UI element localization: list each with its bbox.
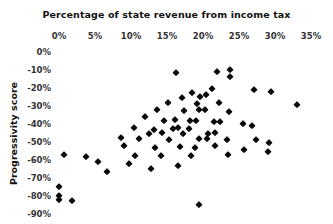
data-point	[130, 124, 138, 132]
data-point	[141, 113, 149, 121]
data-point	[195, 201, 203, 209]
data-point	[201, 106, 209, 114]
data-point	[195, 135, 203, 143]
plot-area	[0, 0, 333, 224]
data-point	[164, 99, 172, 107]
data-point	[293, 101, 301, 109]
data-point	[227, 73, 235, 81]
data-point	[215, 99, 223, 107]
data-point	[171, 116, 179, 124]
data-point	[240, 120, 248, 128]
data-point	[94, 158, 102, 166]
data-point	[224, 151, 232, 159]
data-point	[172, 69, 180, 77]
data-point	[55, 196, 63, 204]
data-point	[68, 197, 76, 205]
data-point	[174, 124, 182, 132]
data-point	[179, 130, 187, 138]
data-point	[265, 139, 273, 147]
data-point	[120, 142, 128, 150]
data-point	[188, 89, 196, 97]
data-point	[165, 136, 173, 144]
data-point	[117, 134, 125, 142]
data-point	[147, 165, 155, 173]
data-point	[267, 88, 275, 96]
data-point	[103, 168, 111, 176]
data-point	[55, 183, 63, 191]
data-point	[214, 68, 222, 76]
data-point	[211, 142, 219, 150]
data-point	[248, 122, 256, 130]
data-point	[135, 135, 143, 143]
data-point	[250, 86, 258, 94]
data-point	[178, 94, 186, 102]
data-point	[187, 152, 195, 160]
data-point	[174, 162, 182, 170]
data-point	[160, 117, 168, 125]
data-point	[192, 117, 200, 125]
data-point	[211, 129, 219, 137]
data-point	[180, 107, 188, 115]
data-point	[191, 144, 199, 152]
data-point	[151, 144, 159, 152]
data-point	[60, 151, 68, 159]
data-point	[225, 108, 233, 116]
data-point	[240, 146, 248, 154]
data-point	[186, 125, 194, 133]
scatter-chart-figure: Percentage of state revenue from income …	[0, 0, 333, 224]
data-point	[202, 91, 210, 99]
data-point	[216, 118, 224, 126]
data-point	[158, 129, 166, 137]
data-point	[153, 106, 161, 114]
data-point	[125, 160, 133, 168]
data-point	[209, 85, 217, 93]
data-point	[176, 143, 184, 151]
data-point	[204, 135, 212, 143]
data-point	[224, 136, 232, 144]
data-point	[252, 136, 260, 144]
data-point	[132, 152, 140, 160]
data-point	[264, 148, 272, 156]
data-point	[83, 153, 91, 161]
data-point	[157, 152, 165, 160]
